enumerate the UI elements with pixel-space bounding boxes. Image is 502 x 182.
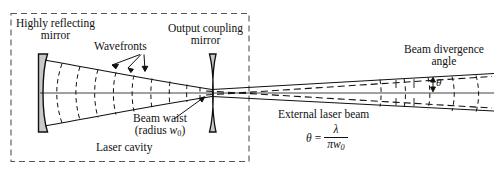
- beam-waist-radius-prefix: (radius: [135, 124, 170, 136]
- output-coupling-mirror-label-line2: mirror: [168, 34, 243, 46]
- formula-denominator: πw0: [324, 138, 348, 153]
- formula-denominator-subscript: 0: [341, 143, 345, 152]
- formula-lhs: θ: [306, 132, 312, 144]
- beam-envelope-upper-external: [212, 74, 494, 90]
- beam-divergence-angle-label: Beam divergence angle: [404, 43, 484, 68]
- highly-reflecting-mirror-label: Highly reflecting mirror: [16, 17, 95, 42]
- wavefront-arc: [95, 70, 98, 118]
- wavefront-arc: [151, 79, 152, 109]
- external-laser-beam-label: External laser beam: [278, 108, 369, 120]
- wavefronts-label: Wavefronts: [94, 40, 147, 52]
- theta-angle-label: θ: [436, 77, 441, 89]
- beam-waist-label-line1: Beam waist: [133, 112, 187, 124]
- beam-waist-radius-suffix: ): [181, 124, 185, 136]
- highly-reflecting-mirror-label-line1: Highly reflecting: [16, 17, 95, 29]
- formula-numerator: λ: [330, 124, 341, 137]
- laser-cavity-label: Laser cavity: [96, 141, 153, 153]
- highly-reflecting-mirror-label-line2: mirror: [16, 29, 95, 41]
- formula-denominator-w: w: [333, 138, 341, 150]
- beam-divergence-angle-label-line2: angle: [404, 55, 484, 67]
- formula-fraction: λ πw0: [324, 124, 348, 152]
- output-coupling-mirror-label: Output coupling mirror: [168, 22, 243, 47]
- formula-equals: =: [315, 132, 322, 144]
- beam-waist-label: Beam waist (radius w0): [133, 112, 187, 140]
- wavefront-callout-arrows: [112, 55, 148, 73]
- beam-waist-label-line2: (radius w0): [133, 124, 187, 139]
- divergence-formula: θ = λ πw0: [306, 124, 348, 152]
- divergence-angle-double-arrow: [431, 77, 436, 92]
- wavefront-arc: [132, 76, 134, 112]
- wavefront-arc: [169, 82, 170, 106]
- beam-divergence-angle-label-line1: Beam divergence: [404, 43, 484, 55]
- output-coupling-mirror-label-line1: Output coupling: [168, 22, 243, 34]
- wavefront-arc: [113, 73, 116, 115]
